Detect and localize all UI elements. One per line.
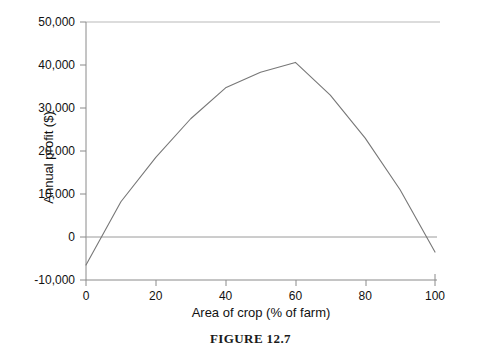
y-tick-label: 20,000: [38, 144, 75, 158]
x-tick-label: 100: [425, 289, 445, 303]
y-tick-group: [80, 22, 86, 280]
chart-plot-area: -10,000010,00020,00030,00040,00050,000 0…: [0, 0, 501, 357]
x-tick-label: 80: [359, 289, 373, 303]
figure-caption: FIGURE 12.7: [0, 331, 501, 347]
x-tick-labels: 020406080100: [83, 289, 446, 303]
x-tick-label: 20: [149, 289, 163, 303]
x-tick-label: 0: [83, 289, 90, 303]
y-tick-label: 40,000: [38, 58, 75, 72]
x-tick-group: [86, 280, 435, 286]
y-tick-labels: -10,000010,00020,00030,00040,00050,000: [34, 15, 75, 287]
y-tick-label: 10,000: [38, 187, 75, 201]
y-tick-label: -10,000: [34, 273, 75, 287]
profit-curve: [86, 62, 435, 265]
y-tick-label: 30,000: [38, 101, 75, 115]
y-tick-label: 0: [68, 230, 75, 244]
figure-container: Annual profit ($) Area of crop (% of far…: [0, 0, 501, 357]
x-tick-label: 60: [289, 289, 303, 303]
x-tick-label: 40: [219, 289, 233, 303]
y-tick-label: 50,000: [38, 15, 75, 29]
